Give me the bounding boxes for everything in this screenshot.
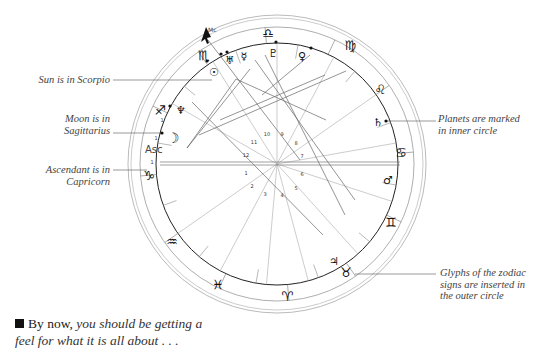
planet-dot — [205, 59, 208, 62]
pisces-glyph-icon: ♓ — [212, 277, 224, 292]
pluto-glyph-icon: ♇ — [268, 47, 278, 60]
annotation-moon: Moon is in Sagittarius — [40, 113, 110, 136]
caption-lead: By now, — [28, 316, 73, 331]
neptune-glyph-icon: ♆ — [176, 104, 186, 117]
taurus-glyph-icon: ♉ — [340, 265, 352, 280]
venus-glyph-icon: ♀ — [298, 50, 306, 63]
planet-dot — [219, 52, 222, 55]
aspect-line — [187, 79, 236, 148]
degree-tick — [184, 86, 195, 95]
planet-dot — [309, 46, 312, 49]
annotation-moon-line2: Sagittarius — [40, 125, 110, 137]
sign-boundary — [328, 40, 335, 55]
uranus-glyph-icon: ♅ — [225, 54, 235, 67]
jupiter-glyph-icon: ♃ — [329, 255, 339, 268]
ascendant-label: Asc — [145, 144, 163, 155]
planet-dot — [168, 104, 171, 107]
house-spoke — [277, 164, 392, 201]
house-number-6: 6 — [300, 171, 303, 177]
annotation-sun: Sun is in Scorpio — [30, 74, 110, 86]
sun-glyph-icon: ☉ — [209, 66, 219, 79]
degree-tick — [256, 269, 258, 283]
leo-glyph-icon: ♌ — [374, 82, 386, 97]
degree-tick — [163, 201, 176, 206]
zodiac-glyphs: ♎♍♌♋♊♉♈♓♒♑♐♏ — [143, 26, 407, 304]
annotation-planets-line2: in inner circle — [438, 125, 548, 137]
aquarius-glyph-icon: ♒ — [166, 234, 178, 249]
saturn-glyph-icon: ♄ — [373, 116, 383, 129]
cancer-glyph-icon: ♋ — [395, 145, 407, 160]
house-number-4: 4 — [280, 192, 283, 198]
house-number-8: 8 — [294, 140, 297, 146]
mercury-glyph-icon: ☿ — [241, 50, 248, 63]
annotation-glyphs-line1: Glyphs of the zodiac — [440, 267, 550, 279]
house-spoke — [178, 164, 277, 233]
aries-glyph-icon: ♈ — [281, 289, 293, 304]
house-number-9: 9 — [280, 131, 283, 137]
sagittarius-glyph-icon: ♐ — [154, 103, 166, 118]
house-spoke — [277, 95, 376, 164]
annotation-glyphs: Glyphs of the zodiac signs are inserted … — [440, 267, 550, 302]
house-number-5: 5 — [294, 185, 297, 191]
annotation-ascendant-line1: Ascendant is in — [20, 164, 110, 176]
house-number-7: 7 — [300, 153, 303, 159]
libra-glyph-icon: ♎ — [262, 26, 274, 41]
aspect-line — [187, 69, 250, 148]
planet-dot — [225, 50, 228, 53]
aspect-line — [199, 71, 346, 135]
aspect-line — [192, 102, 323, 235]
degree-tick — [346, 71, 355, 82]
annotation-ascendant: Ascendant is in Capricorn — [20, 164, 110, 187]
midheaven-label: Mc — [208, 26, 216, 33]
gemini-glyph-icon: ♊ — [385, 215, 397, 230]
bullet-square-icon — [15, 319, 24, 328]
annotation-glyphs-line2: signs are inserted in — [440, 279, 550, 291]
annotation-moon-line1: Moon is in — [40, 113, 110, 125]
caption: By now, you should be getting a feel for… — [15, 315, 215, 349]
virgo-glyph-icon: ♍ — [344, 38, 356, 53]
house-spoke — [266, 164, 277, 285]
degree-tick — [359, 233, 370, 242]
house-number-3: 3 — [263, 191, 266, 197]
house-number-12: 12 — [243, 152, 249, 158]
degree-tick — [314, 265, 319, 278]
annotation-ascendant-line2: Capricorn — [20, 176, 110, 188]
planet-dot — [384, 119, 387, 122]
band-degree-number: 1 — [160, 117, 163, 123]
band-degree-number: 1 — [154, 135, 157, 141]
degree-tick — [199, 246, 208, 257]
house-number-2: 2 — [250, 183, 253, 189]
house-number-1: 1 — [244, 170, 247, 176]
annotation-glyphs-line3: the outer circle — [440, 290, 550, 302]
annotation-planets-line1: Planets are marked — [438, 113, 548, 125]
house-number-11: 11 — [251, 139, 257, 145]
planet-dot — [160, 131, 163, 134]
mars-glyph-icon: ♂ — [383, 174, 393, 187]
house-spoke — [172, 104, 277, 165]
annotation-sun-line1: Sun is in Scorpio — [30, 74, 110, 86]
moon-glyph-icon: ☽ — [167, 130, 180, 146]
capricorn-glyph-icon: ♑ — [143, 168, 155, 183]
annotation-planets: Planets are marked in inner circle — [438, 113, 548, 136]
house-number-10: 10 — [264, 131, 270, 137]
aspect-line — [255, 60, 355, 200]
planet-dot — [274, 40, 277, 43]
band-degree-number: 1 — [150, 159, 153, 165]
